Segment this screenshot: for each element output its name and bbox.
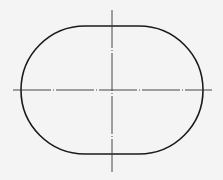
obround-drawing — [0, 0, 223, 180]
